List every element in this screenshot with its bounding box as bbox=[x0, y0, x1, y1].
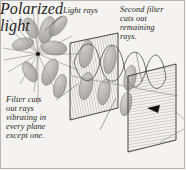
polarization-diagram: Light rays Second filter cuts out remain… bbox=[0, 0, 186, 170]
source-origin-dot bbox=[36, 52, 40, 56]
label-polarized-light: Polarized light bbox=[0, 0, 63, 35]
label-filter-cuts: Filter cuts out rays vibrating in every … bbox=[6, 96, 46, 141]
label-second-filter: Second filter cuts out remaining rays. bbox=[120, 6, 163, 42]
label-light-rays: Light rays bbox=[63, 7, 98, 16]
